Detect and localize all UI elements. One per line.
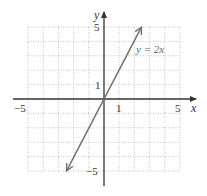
x-tick-5: 5 [175, 102, 181, 114]
x-tick-1: 1 [116, 102, 122, 114]
line-y-equals-2x [104, 28, 141, 99]
line-y-equals-2x-lower [67, 99, 104, 170]
y-tick-5: 5 [94, 21, 100, 33]
y-axis-label: y [93, 8, 100, 22]
x-tick-neg5: −5 [14, 102, 26, 114]
coordinate-plane: −5 1 5 5 1 −5 x y y = 2x [0, 0, 207, 196]
y-tick-1: 1 [95, 79, 101, 91]
x-axis-label: x [190, 101, 197, 115]
y-tick-neg5: −5 [86, 165, 98, 177]
equation-label: y = 2x [135, 43, 164, 55]
